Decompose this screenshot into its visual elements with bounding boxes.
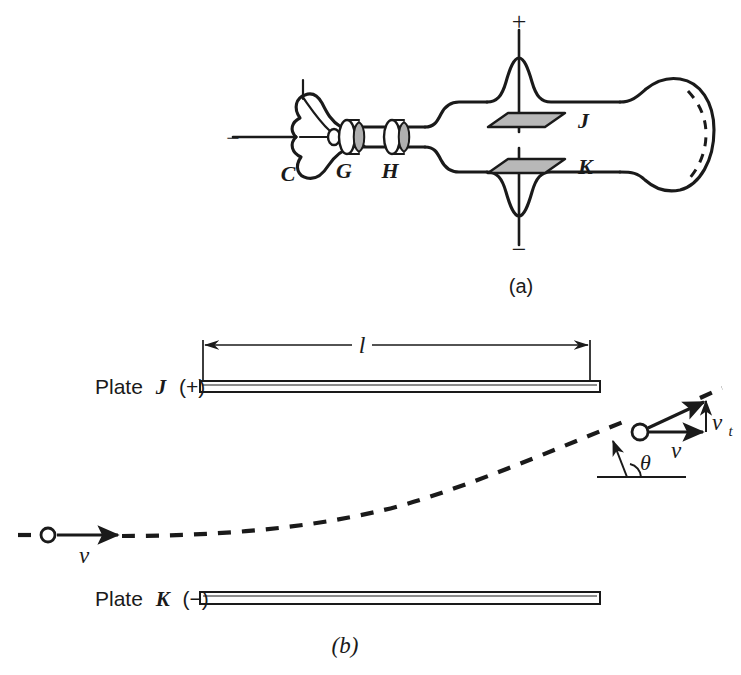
- plate-j-word: Plate: [95, 375, 143, 398]
- electron-exit-dot: [632, 424, 648, 440]
- velocity-transverse-label-group: v t: [712, 409, 734, 439]
- outgoing-dashed-stub: [700, 388, 722, 398]
- plate-j-sign: (+): [179, 375, 205, 398]
- caption-b: (b): [332, 633, 359, 658]
- velocity-in-label: v: [79, 543, 90, 568]
- electrode-label-g: G: [336, 158, 352, 183]
- figure-root: − + − C G H J K (a) l: [0, 0, 741, 675]
- electron-entry-dot: [41, 528, 55, 542]
- screen-dashed-arc: [688, 91, 706, 180]
- plate-k-label-group: Plate K (−): [95, 587, 209, 611]
- tube-bulb-outline: [620, 78, 714, 190]
- electrode-g-front-disc: [339, 120, 355, 154]
- terminal-negative-bottom-sign: −: [512, 235, 527, 264]
- plate-j-label-group: Plate J (+): [95, 375, 205, 399]
- plate-k-rect: [200, 592, 600, 604]
- panel-a-group: − + − C G H J K (a): [226, 7, 714, 297]
- angle-label-theta: θ: [640, 450, 651, 475]
- velocity-out-label: v: [671, 438, 682, 463]
- electrode-label-h: H: [380, 158, 399, 183]
- tube-top-pinch: [487, 58, 620, 102]
- electrode-g-shaded-lens: [354, 122, 365, 152]
- plate-j-text-group: Plate J (+): [95, 375, 205, 399]
- plate-k-letter: K: [155, 587, 172, 611]
- tube-flare-bottom: [425, 147, 487, 172]
- plate-label-j: J: [577, 108, 590, 133]
- velocity-transverse-subscript: t: [729, 423, 734, 439]
- physics-figure: − + − C G H J K (a) l: [0, 0, 741, 675]
- terminal-negative-left-sign: −: [226, 125, 240, 151]
- length-label-l: l: [359, 332, 366, 358]
- panel-b-group: l Plate J (+) Plate K (−): [18, 332, 734, 658]
- velocity-transverse-label: v: [712, 410, 723, 435]
- tube-flare-top: [425, 102, 487, 127]
- electrode-g-group: [339, 120, 364, 154]
- caption-a: (a): [509, 275, 533, 297]
- cathode-label-c: C: [281, 161, 296, 186]
- plate-j-letter: J: [155, 375, 168, 399]
- electrode-h-shaded-lens: [399, 122, 410, 152]
- resultant-velocity-arrow: [648, 402, 704, 428]
- plate-k-sign: (−): [183, 587, 209, 610]
- electrode-h-group: [384, 120, 409, 154]
- angle-tangent-arrow: [613, 441, 627, 477]
- electron-trajectory: [122, 420, 628, 536]
- plate-label-k: K: [577, 154, 594, 179]
- terminal-positive-top-sign: +: [512, 7, 527, 36]
- tube-bottom-pinch: [487, 172, 620, 216]
- electrode-h-front-disc: [384, 120, 400, 154]
- plate-k-text-group: Plate K (−): [95, 587, 209, 611]
- deflection-plate-j: [488, 113, 565, 127]
- plate-k-word: Plate: [95, 587, 143, 610]
- plate-j-rect: [200, 381, 600, 392]
